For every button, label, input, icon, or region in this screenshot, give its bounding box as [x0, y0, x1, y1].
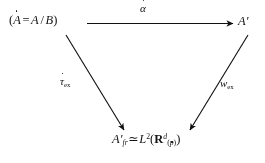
target-a-script: A [238, 14, 246, 28]
w-subscript-ex: ex [227, 83, 233, 90]
bottom-r-bold: R [154, 132, 163, 146]
source-a-plain: A [31, 13, 39, 27]
bottom-simeq: ≃ [128, 132, 139, 146]
commutative-diagram: (A=A/B) A′ A′fr≃L2(Rd(p)) α τex wex [0, 0, 265, 163]
right-arrow [190, 35, 248, 130]
node-source: (A=A/B) [9, 14, 57, 27]
right-arrow-label: wex [220, 78, 234, 89]
bottom-subscript-fr: fr [123, 138, 128, 147]
bottom-a-script: A [112, 132, 120, 146]
alpha-dotted: α [140, 3, 146, 14]
alpha-base: α [140, 2, 146, 14]
source-a-dotted: A [13, 14, 21, 27]
top-arrow-label: α [140, 3, 146, 14]
tau-subscript-ex: ex [64, 81, 70, 88]
dot-accent-icon [16, 10, 18, 12]
node-target: A′ [238, 15, 249, 28]
bottom-sub-p-base: p [170, 138, 174, 147]
target-prime: ′ [246, 14, 249, 28]
tau-dotted: τ [60, 76, 64, 87]
left-arrow-label: τex [60, 76, 70, 87]
source-close-paren: ) [53, 13, 57, 27]
node-bottom: A′fr≃L2(Rd(p)) [112, 133, 180, 146]
bottom-close-paren: ) [176, 132, 180, 146]
tau-base: τ [60, 75, 64, 87]
left-arrow [66, 35, 124, 130]
dot-accent-icon [171, 141, 173, 143]
source-equals: = [21, 13, 31, 27]
bottom-subscript-phat: (p) [167, 138, 176, 147]
source-a-dotted-base: A [13, 13, 21, 27]
